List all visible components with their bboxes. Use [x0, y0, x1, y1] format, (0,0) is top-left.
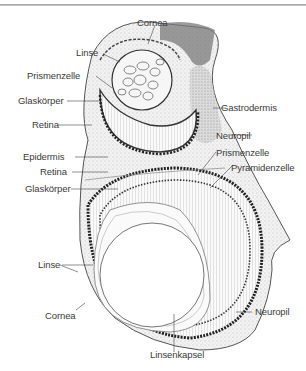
- label-prismenzelle-lower: Prismenzelle: [216, 147, 269, 158]
- label-gastrodermis: Gastrodermis: [221, 102, 277, 113]
- label-linsenkapsel: Linsenkapsel: [150, 349, 204, 360]
- label-prismenzelle-upper: Prismenzelle: [27, 70, 80, 81]
- label-cornea-lower: Cornea: [45, 310, 76, 321]
- label-neuropil-upper: Neuropil: [216, 130, 251, 141]
- label-glaskoerper-upper: Glaskörper: [18, 95, 63, 106]
- label-epidermis: Epidermis: [23, 151, 64, 162]
- label-linse-upper: Linse: [76, 47, 98, 58]
- label-linse-lower: Linse: [38, 259, 60, 270]
- label-cornea-upper: Cornea: [137, 17, 168, 28]
- label-retina-upper: Retina: [32, 119, 59, 130]
- label-glaskoerper-lower: Glaskörper: [25, 183, 70, 194]
- label-retina-lower: Retina: [40, 166, 67, 177]
- label-neuropil-lower: Neuropil: [255, 306, 290, 317]
- label-pyramidenzelle: Pyramidenzelle: [231, 162, 295, 173]
